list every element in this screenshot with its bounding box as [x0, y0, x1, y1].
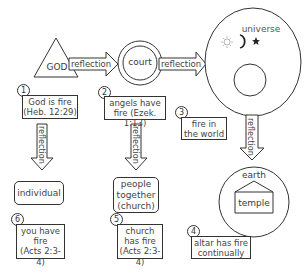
note-6-line-1: you have: [17, 226, 64, 236]
people-line-1: people: [114, 179, 158, 190]
note-4-box: altar has fire continually: [191, 236, 251, 259]
people-node: people together (church): [113, 177, 159, 213]
people-line-3: (church): [114, 201, 158, 212]
note-2-line-1: angels have: [105, 98, 165, 108]
note-1-line-2: (Heb. 12:29): [23, 107, 77, 117]
note-5-line-3: (Acts 2:3-4): [118, 246, 162, 266]
arrow-label-god-court: reflection: [71, 59, 111, 69]
note-6-line-3: (Acts 2:3-4): [17, 246, 64, 266]
universe-label: universe: [236, 24, 286, 34]
note-6-box: you have fire (Acts 2:3-4): [16, 224, 65, 259]
note-3-box: fire in the world: [181, 117, 227, 140]
temple-label: temple: [235, 198, 273, 208]
universe-inner-circle: [234, 64, 266, 96]
note-1-box: God is fire (Heb. 12:29): [22, 95, 78, 119]
note-6-line-2: fire: [17, 236, 64, 246]
arrow-label-box2-people: reflection: [131, 126, 140, 164]
note-4-line-1: altar has fire: [192, 238, 250, 248]
individual-node: individual: [14, 181, 64, 205]
note-5-line-2: has fire: [118, 236, 162, 246]
arrow-label-universe-earth: reflection: [246, 118, 255, 156]
god-label: GOD: [40, 62, 74, 72]
note-4-line-2: continually: [192, 248, 250, 258]
arrow-label-court-universe: reflection: [161, 59, 201, 69]
earth-label: earth: [234, 170, 274, 180]
note-1-line-1: God is fire: [23, 97, 77, 107]
note-2-line-2: fire (Ezek. 1:13): [105, 108, 165, 128]
note-2-box: angels have fire (Ezek. 1:13): [104, 96, 166, 120]
people-line-2: together: [114, 190, 158, 201]
note-5-box: church has fire (Acts 2:3-4): [117, 224, 163, 259]
arrow-label-box1-individual: reflection: [37, 126, 46, 164]
note-3-line-1: fire in: [182, 119, 226, 129]
court-label: court: [125, 57, 155, 67]
note-5-line-1: church: [118, 226, 162, 236]
note-3-line-2: the world: [182, 129, 226, 139]
individual-label: individual: [17, 188, 61, 198]
